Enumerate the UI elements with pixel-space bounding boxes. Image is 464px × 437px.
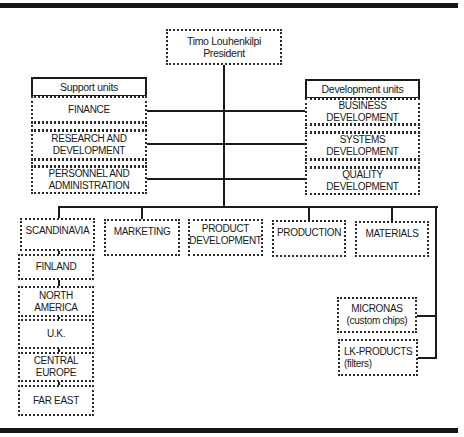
- far-east-box: FAR EAST: [18, 385, 94, 416]
- development-units-header: Development units: [305, 79, 420, 99]
- quality-development-box: QUALITY DEVELOPMENT: [305, 167, 420, 195]
- business-development-box: BUSINESS DEVELOPMENT: [305, 98, 420, 125]
- micronas-box: MICRONAS (custom chips): [337, 297, 417, 333]
- president-box: Timo Louhenkilpi President: [166, 29, 282, 65]
- scandinavia-box: SCANDINAVIA: [20, 218, 95, 251]
- president-name: Timo Louhenkilpi: [187, 35, 261, 47]
- product-development-box: PRODUCT DEVELOPMENT: [188, 219, 263, 256]
- materials-drop: [391, 206, 393, 221]
- uk-box: U.K.: [18, 319, 94, 349]
- finance-connector: [146, 110, 306, 112]
- lk-products-connector: [416, 357, 437, 359]
- marketing-drop: [141, 206, 143, 220]
- micronas-connector: [416, 315, 437, 317]
- personnel-administration-box: PERSONNEL AND ADMINISTRATION: [31, 166, 147, 194]
- marketing-box: MARKETING: [104, 219, 180, 256]
- president-title: President: [203, 47, 245, 59]
- bottom-rule: [0, 428, 458, 433]
- personnel-connector: [146, 178, 306, 180]
- central-europe-box: CENTRAL EUROPE: [18, 352, 94, 382]
- support-units-header: Support units: [31, 77, 147, 97]
- finance-box: FINANCE: [31, 96, 147, 123]
- division-bus-line: [58, 206, 438, 208]
- north-america-box: NORTH AMERICA: [18, 286, 94, 317]
- systems-development-box: SYSTEMS DEVELOPMENT: [305, 132, 420, 160]
- materials-box: MATERIALS: [355, 221, 429, 257]
- production-box: PRODUCTION: [272, 220, 346, 257]
- lk-products-box: LK-PRODUCTS (filters): [338, 339, 418, 376]
- research-development-box: RESEARCH AND DEVELOPMENT: [31, 130, 147, 160]
- main-trunk-line: [223, 64, 225, 207]
- subsidiary-trunk-line: [435, 206, 437, 358]
- rnd-connector: [146, 143, 306, 145]
- production-drop: [308, 206, 310, 221]
- top-rule: [0, 3, 458, 8]
- finland-box: FINLAND: [18, 254, 94, 280]
